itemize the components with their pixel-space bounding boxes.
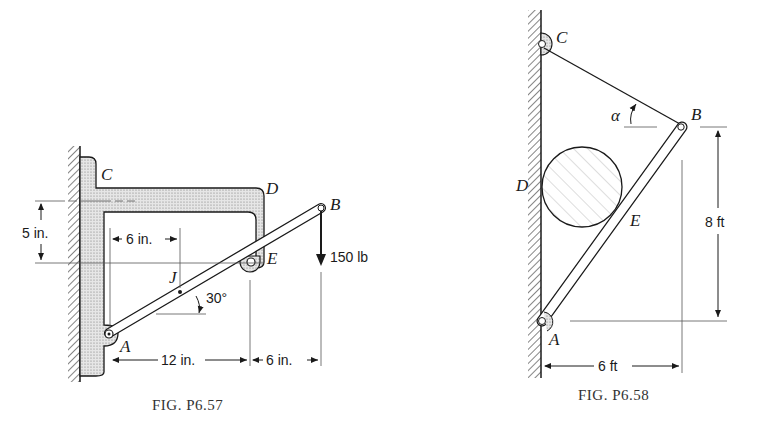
member-ab bbox=[109, 208, 321, 333]
dim-5in-label: 5 in. bbox=[22, 225, 48, 241]
pin-c bbox=[539, 41, 546, 48]
figure-p6-57: 5 in. 6 in. 30° 150 lb 12 in. 6 in. C D … bbox=[22, 146, 368, 413]
figure-caption: FIG. P6.57 bbox=[152, 397, 223, 413]
figure-p6-58: α 8 ft 6 ft C B D E A FIG. P6.58 bbox=[515, 10, 727, 403]
dim-6ft-label: 6 ft bbox=[598, 358, 618, 374]
point-label-d: D bbox=[265, 179, 279, 198]
point-label-a: A bbox=[548, 330, 560, 349]
load-arrow-icon bbox=[316, 254, 326, 266]
dim-12in-label: 12 in. bbox=[161, 352, 195, 368]
point-label-d: D bbox=[515, 176, 529, 195]
point-label-c: C bbox=[556, 28, 568, 47]
ball bbox=[542, 147, 622, 227]
point-label-e: E bbox=[629, 211, 641, 230]
dim-8ft-label: 8 ft bbox=[705, 214, 725, 230]
pin-a bbox=[539, 318, 546, 325]
alpha-label: α bbox=[611, 106, 621, 125]
pin-e bbox=[247, 258, 255, 266]
point-label-a: A bbox=[119, 337, 131, 356]
dim-6in-eb-label: 6 in. bbox=[266, 352, 292, 368]
angle-30-label: 30° bbox=[206, 290, 227, 306]
point-label-e: E bbox=[266, 249, 278, 268]
dim-6in-j-label: 6 in. bbox=[126, 231, 152, 247]
point-label-c: C bbox=[101, 165, 113, 184]
load-label: 150 lb bbox=[330, 249, 368, 265]
figure-caption: FIG. P6.58 bbox=[578, 387, 649, 403]
wall-hatch bbox=[68, 146, 80, 382]
point-j bbox=[178, 290, 182, 294]
bracket-cde bbox=[80, 157, 264, 376]
point-label-b: B bbox=[330, 195, 341, 214]
diagram-canvas: 5 in. 6 in. 30° 150 lb 12 in. 6 in. C D … bbox=[0, 0, 766, 436]
point-label-b: B bbox=[691, 105, 702, 124]
point-label-j: J bbox=[169, 268, 178, 287]
pin-b bbox=[678, 124, 684, 130]
